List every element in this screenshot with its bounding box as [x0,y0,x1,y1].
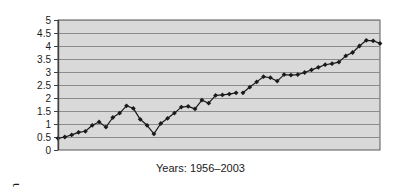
y-axis-tick-label: 4.5 [37,28,51,39]
y-axis-tick-label: 5 [45,15,51,26]
y-axis-tick-label: 4 [45,41,51,52]
y-axis-tick-label: 3.5 [37,54,51,65]
y-axis-tick-label: 1 [45,119,51,130]
chart-plot: 54.543.532.521.510.50 [0,0,401,187]
y-axis-tick-label: 0.5 [37,132,51,143]
chart-figure: Log10 INR million 54.543.532.521.510.50 … [0,0,401,187]
y-axis-tick-marks [54,21,58,151]
x-axis-title: Years: 1956–2003 [0,162,401,174]
y-axis-tick-label: 2 [45,93,51,104]
y-axis-tick-label: 3 [45,67,51,78]
y-axis-tick-label: 2.5 [37,80,51,91]
y-axis-tick-label: 1.5 [37,106,51,117]
y-axis-tick-label: 0 [45,145,51,156]
y-axis-tick-labels: 54.543.532.521.510.50 [37,15,51,156]
